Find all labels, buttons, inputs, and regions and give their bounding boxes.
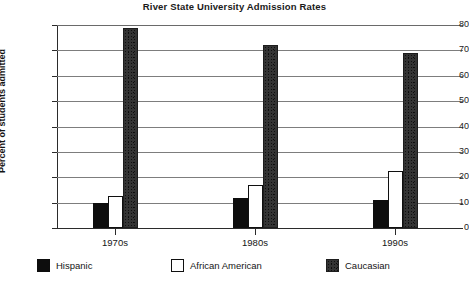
bar-hispanic-1970s (93, 203, 108, 228)
bar-group-1980s (233, 25, 278, 228)
legend-item-african-american[interactable]: African American (171, 259, 262, 272)
y-tick-mark (52, 127, 57, 128)
chart-title: River State University Admission Rates (0, 1, 469, 12)
legend-label: Caucasian (345, 260, 390, 271)
y-tick-mark (52, 152, 57, 153)
bar-hispanic-1990s (373, 200, 388, 228)
x-tick-mark (255, 229, 256, 235)
y-tick-label: 50 (421, 95, 469, 105)
bar-chart: River State University Admission Rates P… (0, 0, 469, 283)
legend-swatch-icon (171, 259, 184, 272)
y-tick-label: 80 (421, 19, 469, 29)
legend-item-hispanic[interactable]: Hispanic (37, 259, 92, 272)
plot-area (57, 25, 463, 228)
y-tick-label: 40 (421, 121, 469, 131)
y-tick-mark (52, 76, 57, 77)
legend-swatch-icon (326, 259, 339, 272)
bar-african-american-1990s (388, 171, 403, 228)
y-tick-label: 0 (421, 222, 469, 232)
y-tick-label: 60 (421, 70, 469, 80)
legend-item-caucasian[interactable]: Caucasian (326, 259, 390, 272)
bar-african-american-1980s (248, 185, 263, 228)
x-tick-mark (395, 229, 396, 235)
bar-caucasian-1990s (403, 53, 418, 228)
y-tick-label: 20 (421, 171, 469, 181)
y-tick-mark (52, 203, 57, 204)
bar-caucasian-1980s (263, 45, 278, 228)
legend-swatch-icon (37, 259, 50, 272)
y-tick-label: 30 (421, 146, 469, 156)
y-tick-mark (52, 228, 57, 229)
chart-legend: HispanicAfrican AmericanCaucasian (0, 259, 469, 279)
y-axis-title: Percent of students admitted (0, 0, 7, 236)
x-tick-label-1980s: 1980s (210, 237, 300, 248)
x-tick-label-1970s: 1970s (70, 237, 160, 248)
bar-african-american-1970s (108, 196, 123, 228)
bar-group-1990s (373, 25, 418, 228)
y-tick-label: 10 (421, 197, 469, 207)
y-tick-mark (52, 177, 57, 178)
x-tick-mark (115, 229, 116, 235)
bar-hispanic-1980s (233, 198, 248, 228)
y-tick-mark (52, 25, 57, 26)
legend-label: Hispanic (56, 260, 92, 271)
bar-group-1970s (93, 25, 138, 228)
legend-label: African American (190, 260, 262, 271)
y-tick-label: 70 (421, 44, 469, 54)
x-tick-label-1990s: 1990s (350, 237, 440, 248)
y-tick-mark (52, 101, 57, 102)
x-axis-line (57, 228, 463, 229)
y-tick-mark (52, 50, 57, 51)
bar-caucasian-1970s (123, 28, 138, 228)
